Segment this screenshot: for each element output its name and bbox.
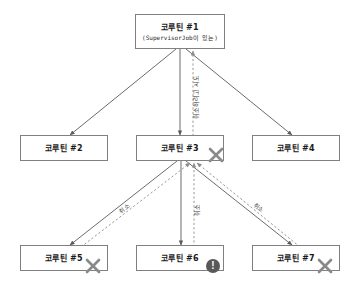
edge-label-attempt-cancel: 취소하려고 시도 xyxy=(191,79,200,119)
node-coroutine-1[interactable]: 코루틴 #1 (SupervisorJob이 있는) xyxy=(135,14,225,49)
edge-n5-n3-cancel xyxy=(81,163,190,247)
node-coroutine-2-title: 코루틴 #2 xyxy=(45,143,83,154)
node-coroutine-7-title: 코루틴 #7 xyxy=(277,253,315,264)
cancel-x-icon-node-7 xyxy=(316,257,334,275)
alert-exclamation-icon-node-6: ! xyxy=(206,259,220,273)
edge-label-cancel-center: 취소 xyxy=(192,200,201,220)
cancel-x-icon-node-3 xyxy=(207,146,225,164)
alert-exclamation-glyph: ! xyxy=(211,261,214,271)
node-coroutine-3-title: 코루틴 #3 xyxy=(161,143,199,154)
edge-n1-n4 xyxy=(186,49,292,135)
node-coroutine-1-title: 코루틴 #1 xyxy=(161,22,199,33)
edge-n1-n2 xyxy=(70,49,176,135)
node-coroutine-6-title: 코루틴 #6 xyxy=(161,253,199,264)
cancel-x-icon-node-5 xyxy=(84,257,102,275)
node-coroutine-1-subtitle: (SupervisorJob이 있는) xyxy=(142,34,218,42)
node-coroutine-4-title: 코루틴 #4 xyxy=(277,143,315,154)
edge-n3-n7 xyxy=(186,161,292,245)
node-coroutine-2[interactable]: 코루틴 #2 xyxy=(20,135,108,161)
coroutine-cancellation-diagram: 코루틴 #1 (SupervisorJob이 있는) 코루틴 #2 코루틴 #3… xyxy=(0,0,360,292)
node-coroutine-4[interactable]: 코루틴 #4 xyxy=(252,135,340,161)
node-coroutine-5-title: 코루틴 #5 xyxy=(45,253,83,264)
